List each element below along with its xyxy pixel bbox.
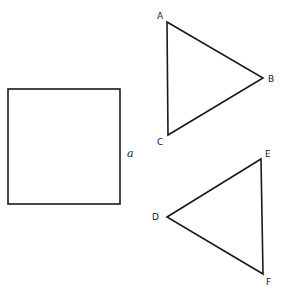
triangle-abc-outline: [167, 22, 263, 135]
square-side-label: a: [127, 147, 134, 160]
vertex-label-c: C: [157, 137, 163, 147]
vertex-label-a: A: [157, 11, 164, 21]
vertex-label-f: F: [266, 277, 271, 287]
triangle-abc: A B C: [157, 11, 274, 147]
diagram-canvas: a A B C D E F: [0, 0, 283, 291]
vertex-label-b: B: [268, 74, 274, 84]
square: a: [8, 89, 134, 204]
vertex-label-d: D: [152, 212, 159, 222]
vertex-label-e: E: [265, 149, 271, 159]
triangle-def: D E F: [152, 149, 271, 287]
triangle-def-outline: [167, 159, 263, 274]
square-outline: [8, 89, 120, 204]
